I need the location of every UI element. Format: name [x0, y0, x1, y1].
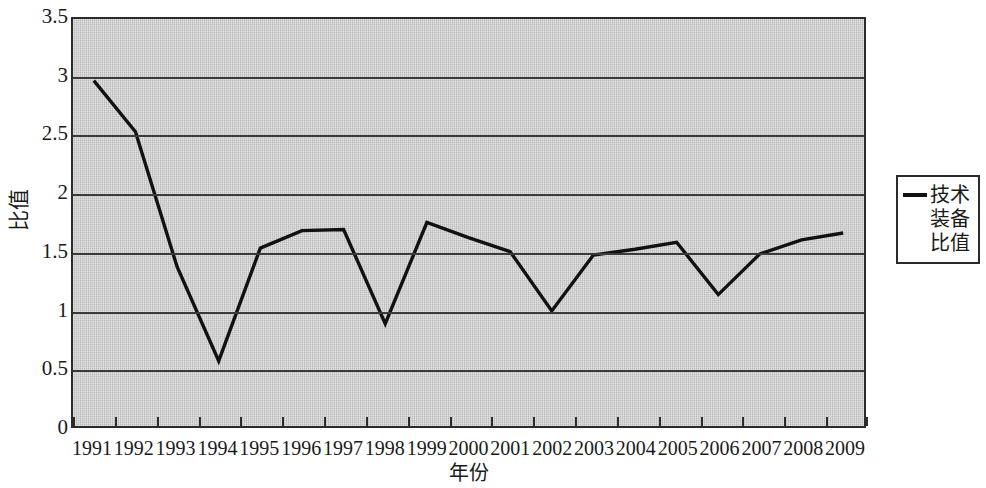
x-axis-tick-mark: [324, 417, 326, 426]
chart-legend: 技术装备比值: [896, 175, 980, 264]
y-axis-tick-labels: 3.532.521.510.50: [0, 0, 68, 488]
gridline: [73, 194, 864, 196]
x-axis-tick-mark: [491, 417, 493, 426]
x-axis-tick-mark: [115, 417, 117, 426]
x-axis-tick-mark: [826, 417, 828, 426]
x-axis-tick-mark: [617, 417, 619, 426]
x-axis-tick-mark: [240, 417, 242, 426]
x-axis-tick-mark: [742, 417, 744, 426]
gridline: [73, 312, 864, 314]
gridline: [73, 370, 864, 372]
x-axis-tick-mark: [784, 417, 786, 426]
legend-entry-label: 技术装备比值: [930, 183, 974, 255]
x-axis-tick-mark: [701, 417, 703, 426]
x-axis-tick-mark: [575, 417, 577, 426]
x-axis-tick-mark: [282, 417, 284, 426]
y-axis-tick-label: 2: [6, 182, 68, 203]
y-axis-tick-label: 0: [6, 417, 68, 438]
gridline: [73, 135, 864, 137]
x-axis-title: 年份: [71, 462, 866, 484]
x-axis-tick-mark: [73, 417, 75, 426]
gridline: [73, 253, 864, 255]
x-axis-tick-mark: [866, 417, 868, 426]
y-axis-tick-label: 2.5: [6, 123, 68, 144]
x-axis-tick-mark: [408, 417, 410, 426]
y-axis-tick-label: 0.5: [6, 358, 68, 379]
x-axis-tick-mark: [366, 417, 368, 426]
data-series-line: [73, 19, 864, 426]
x-axis-tick-mark: [450, 417, 452, 426]
x-axis-tick-mark: [533, 417, 535, 426]
x-axis-tick-label: 2009: [818, 436, 872, 460]
plot-area: [71, 17, 866, 428]
gridline: [73, 77, 864, 79]
x-axis-tick-mark: [157, 417, 159, 426]
x-axis-tick-labels: 1991199219931994199519961997199819992000…: [71, 436, 866, 462]
legend-line-swatch-icon: [903, 193, 927, 197]
y-axis-tick-label: 1: [6, 300, 68, 321]
y-axis-tick-label: 3: [6, 65, 68, 86]
y-axis-tick-label: 3.5: [6, 6, 68, 27]
x-axis-tick-mark: [199, 417, 201, 426]
line-chart-figure: 比值 3.532.521.510.50 19911992199319941995…: [0, 0, 986, 488]
x-axis-tick-mark: [659, 417, 661, 426]
y-axis-tick-label: 1.5: [6, 241, 68, 262]
